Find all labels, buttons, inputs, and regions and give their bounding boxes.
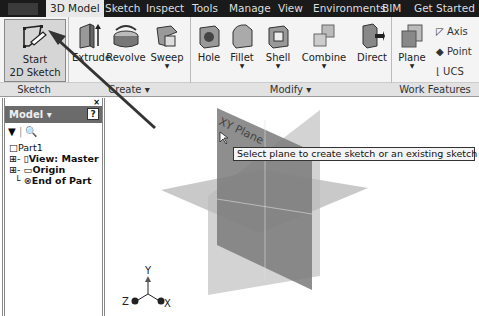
direct-edit-icon: [359, 22, 385, 50]
sweep-button[interactable]: Sweep ▼: [149, 22, 185, 69]
tab-tools[interactable]: Tools: [188, 0, 222, 17]
tab-3d-model[interactable]: 3D Model: [46, 0, 104, 17]
browser-title[interactable]: Model ▾: [9, 109, 52, 120]
ribbon-tab-bar: 3D Model Sketch Inspect Tools Manage Vie…: [0, 0, 479, 17]
axis-button[interactable]: ◸ Axis: [436, 26, 468, 37]
extrude-label: Extrude: [72, 52, 106, 63]
combine-button[interactable]: Combine ▼: [301, 22, 347, 69]
z-axis-cone: [132, 298, 139, 305]
tree-item-origin[interactable]: ⊞- ▭Origin: [9, 164, 99, 175]
model-tree: □Part1 ⊞- ▯View: Master ⊞- ▭Origin └ ⊗En…: [9, 142, 99, 186]
create-panel-label[interactable]: Create ▾: [68, 83, 190, 97]
x-axis-label: X: [164, 298, 171, 309]
tab-manage[interactable]: Manage: [225, 0, 275, 17]
sweep-dropdown-icon[interactable]: ▼: [149, 63, 185, 69]
tooltip: Select plane to create sketch or an exis…: [233, 147, 475, 161]
shell-icon: [266, 22, 290, 50]
sweep-icon: [153, 22, 181, 50]
direct-button[interactable]: Direct: [355, 22, 389, 63]
hole-label: Hole: [194, 52, 224, 63]
start-label: Start: [23, 54, 47, 65]
model-browser: × Model ▾ ? ▼ | 🔍 □Part1 ⊞- ▯View: Maste…: [2, 98, 105, 316]
point-icon: ◆: [436, 46, 444, 57]
z-axis-label: Z: [122, 296, 129, 307]
plane-button[interactable]: Plane ▼: [397, 22, 427, 69]
revolve-button[interactable]: Revolve: [106, 22, 146, 63]
plane-dropdown-icon[interactable]: ▼: [397, 63, 427, 69]
shell-button[interactable]: Shell ▼: [263, 22, 293, 69]
y-axis-label: Y: [144, 265, 152, 276]
combine-icon: [310, 22, 338, 50]
start-2d-sketch-button[interactable]: Start2D Sketch: [4, 19, 66, 82]
ribbon-panel-bar: Sketch Create ▾ Modify ▾ Work Features: [0, 83, 479, 97]
y-axis-cone: [145, 276, 151, 282]
fillet-button[interactable]: Fillet ▼: [226, 22, 258, 69]
expand-icon[interactable]: ⊞: [9, 153, 17, 164]
sketch-panel-label[interactable]: Sketch: [0, 83, 68, 97]
part-icon: □: [9, 142, 18, 153]
modify-panel-label[interactable]: Modify ▾: [190, 83, 391, 97]
tab-get-started[interactable]: Get Started: [410, 0, 479, 17]
direct-label: Direct: [355, 52, 389, 63]
find-icon[interactable]: 🔍: [25, 126, 37, 137]
browser-header: Model ▾ ?: [5, 106, 102, 123]
hole-button[interactable]: Hole: [194, 22, 224, 63]
expand-icon[interactable]: ⊞: [9, 164, 17, 175]
help-button[interactable]: ?: [87, 108, 99, 120]
tab-bim[interactable]: BIM: [378, 0, 405, 17]
plane-icon: [400, 22, 424, 50]
hole-icon: [197, 22, 221, 50]
ucs-label: UCS: [443, 66, 464, 77]
browser-toolbar: ▼ | 🔍: [8, 126, 37, 137]
tab-inspect[interactable]: Inspect: [142, 0, 188, 17]
axis-icon: ◸: [436, 26, 444, 37]
application-menu-button[interactable]: [8, 3, 38, 15]
axis-label: Axis: [447, 26, 468, 37]
viewport[interactable]: XY Plane Y Z X: [105, 98, 479, 316]
shell-dropdown-icon[interactable]: ▼: [263, 63, 293, 69]
tab-view[interactable]: View: [274, 0, 307, 17]
point-button[interactable]: ◆ Point: [436, 46, 472, 57]
sketch-icon: [21, 24, 49, 50]
fillet-dropdown-icon[interactable]: ▼: [226, 63, 258, 69]
combine-dropdown-icon[interactable]: ▼: [301, 63, 347, 69]
extrude-icon: [76, 22, 102, 50]
2d-sketch-label: 2D Sketch: [10, 67, 61, 78]
tree-item-part1[interactable]: □Part1: [9, 142, 99, 153]
ucs-button[interactable]: ⌊ UCS: [436, 66, 464, 77]
tree-item-end-of-part[interactable]: └ ⊗End of Part: [9, 175, 99, 186]
tab-sketch[interactable]: Sketch: [101, 0, 144, 17]
extrude-button[interactable]: Extrude: [72, 22, 106, 63]
filter-icon[interactable]: ▼: [8, 126, 16, 137]
revolve-icon: [110, 22, 142, 50]
point-label: Point: [447, 46, 472, 57]
ucs-icon: ⌊: [436, 66, 440, 77]
work-features-panel-label[interactable]: Work Features: [391, 83, 479, 97]
revolve-label: Revolve: [106, 52, 146, 63]
end-of-part-icon: ⊗: [24, 175, 32, 186]
tree-item-view-master[interactable]: ⊞- ▯View: Master: [9, 153, 99, 164]
fillet-icon: [230, 22, 254, 50]
